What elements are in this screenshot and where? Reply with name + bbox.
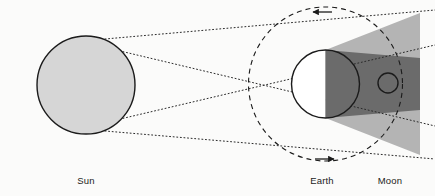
earth-group	[291, 49, 361, 119]
label-moon: Moon	[378, 176, 403, 186]
label-earth: Earth	[310, 176, 334, 186]
earth-lit-hemisphere	[291, 49, 326, 119]
label-sun: Sun	[77, 176, 95, 186]
lunar-eclipse-diagram: Sun Earth Moon	[0, 0, 435, 196]
sun-body	[37, 36, 135, 134]
diagram-canvas	[0, 0, 435, 196]
